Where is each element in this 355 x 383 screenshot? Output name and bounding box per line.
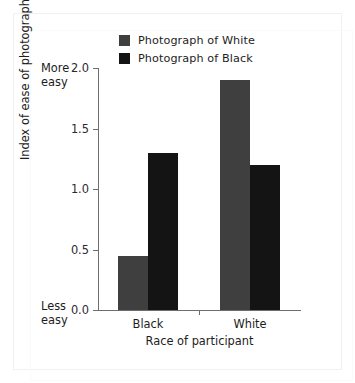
bar bbox=[148, 153, 178, 310]
bar bbox=[118, 256, 148, 310]
chart-figure: Photograph of White Photograph of Black … bbox=[0, 0, 355, 383]
legend-swatch-photograph-of-white bbox=[119, 35, 130, 46]
y-axis-line bbox=[98, 68, 99, 311]
y-axis-tick-label: 2.0 bbox=[71, 61, 89, 75]
bar bbox=[250, 165, 280, 310]
x-axis-title: Race of participant bbox=[98, 334, 301, 348]
y-axis-anchor-high: More easy bbox=[41, 62, 69, 89]
y-axis-tick-label: 0.0 bbox=[71, 303, 89, 317]
y-axis-anchor-low: Less easy bbox=[41, 300, 68, 327]
legend-swatch-photograph-of-black bbox=[119, 53, 130, 64]
y-axis-tick bbox=[93, 68, 98, 69]
y-axis-anchor-high-line1: More bbox=[41, 62, 69, 76]
y-axis-anchor-low-line1: Less bbox=[41, 300, 68, 314]
x-axis-category-label: Black bbox=[133, 317, 164, 331]
x-axis-center-tick bbox=[199, 310, 200, 315]
y-axis-tick bbox=[93, 310, 98, 311]
y-axis-tick bbox=[93, 250, 98, 251]
y-axis-tick-label: 0.5 bbox=[71, 243, 89, 257]
x-axis-category-label: White bbox=[233, 317, 266, 331]
y-axis-title: Index of ease of photograph recognition bbox=[18, 0, 32, 160]
y-axis-anchor-high-line2: easy bbox=[41, 76, 69, 90]
y-axis-tick bbox=[93, 129, 98, 130]
legend-item: Photograph of White bbox=[119, 33, 299, 48]
legend-label-photograph-of-white: Photograph of White bbox=[138, 34, 255, 47]
y-axis-tick-label: 1.0 bbox=[71, 182, 89, 196]
legend-label-photograph-of-black: Photograph of Black bbox=[138, 52, 253, 65]
legend-item: Photograph of Black bbox=[119, 51, 299, 66]
chart-legend: Photograph of White Photograph of Black bbox=[119, 33, 299, 69]
y-axis-tick-label: 1.5 bbox=[71, 122, 89, 136]
y-axis-tick bbox=[93, 189, 98, 190]
plot-area: 0.00.51.01.52.0 BlackWhite bbox=[98, 68, 300, 310]
bar bbox=[220, 80, 250, 310]
y-axis-anchor-low-line2: easy bbox=[41, 314, 68, 328]
